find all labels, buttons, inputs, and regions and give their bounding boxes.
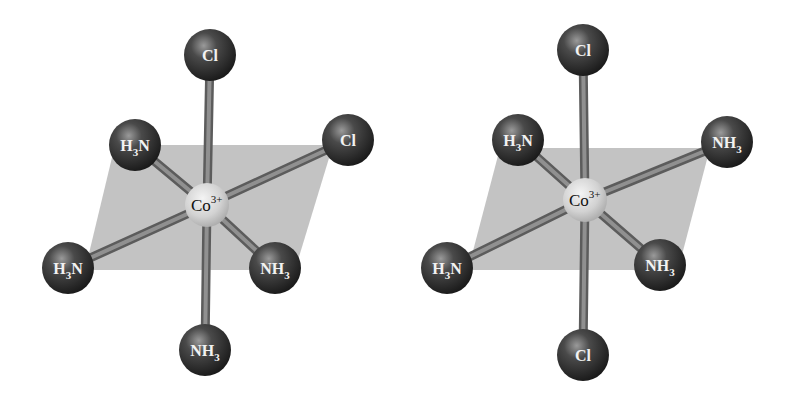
ligand-sphere (109, 119, 161, 171)
ligand-lower-left: H3N (42, 242, 94, 294)
ligand-top: Cl (184, 29, 236, 81)
ligand-upper-right: NH3 (701, 116, 753, 168)
ligand-upper-left: H3N (109, 119, 161, 171)
molecule-left-isomer: Co3+ClH3NClH3NNH3NH3 (42, 29, 374, 376)
ligand-label: Cl (340, 132, 357, 149)
ligand-top: Cl (557, 24, 609, 76)
ligand-upper-left: H3N (492, 114, 544, 166)
ligand-bottom: NH3 (179, 324, 231, 376)
ligand-label: Cl (575, 347, 592, 364)
ligand-lower-right: NH3 (249, 242, 301, 294)
ligand-label: Cl (575, 42, 592, 59)
ligand-sphere (421, 242, 473, 294)
ligand-lower-left: H3N (421, 242, 473, 294)
diagram-canvas: Co3+ClH3NClH3NNH3NH3 Co3+ClH3NNH3H3NNH3C… (0, 0, 791, 405)
molecule-right-isomer: Co3+ClH3NNH3H3NNH3Cl (421, 24, 753, 381)
ligand-sphere (42, 242, 94, 294)
ligand-lower-right: NH3 (634, 239, 686, 291)
ligand-sphere (492, 114, 544, 166)
ligand-upper-right: Cl (322, 114, 374, 166)
ligand-label: Cl (202, 47, 219, 64)
ligand-bottom: Cl (557, 329, 609, 381)
